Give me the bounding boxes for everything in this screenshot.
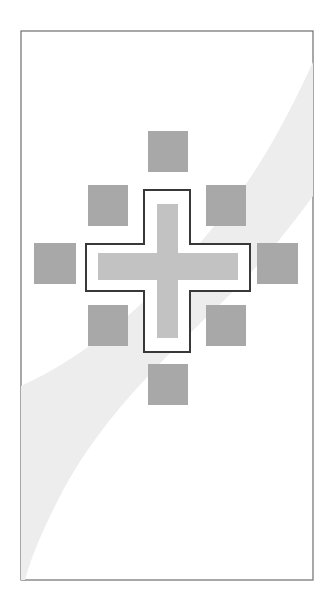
tile-top-center bbox=[148, 131, 188, 172]
diagram-canvas bbox=[0, 0, 335, 610]
tile-bottom-left bbox=[88, 305, 128, 346]
tile-middle-right bbox=[257, 243, 298, 284]
tile-top-right bbox=[206, 185, 246, 226]
tile-top-left bbox=[88, 185, 128, 226]
tile-bottom-center bbox=[148, 364, 188, 405]
diagram-svg bbox=[0, 0, 335, 610]
tile-middle-left bbox=[34, 243, 76, 284]
tile-bottom-right bbox=[206, 305, 246, 346]
